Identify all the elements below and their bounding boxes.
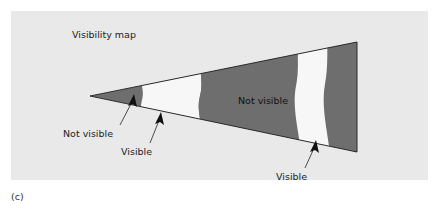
- visibility-map-diagram: Not visible Visible Not visible Visible …: [0, 0, 440, 217]
- label-not-visible-right: Not visible: [238, 95, 288, 106]
- visibility-map-figure: Not visible Visible Not visible Visible …: [0, 0, 440, 217]
- label-visible-right: Visible: [276, 171, 307, 182]
- label-visible-left: Visible: [121, 146, 152, 157]
- label-not-visible-left: Not visible: [63, 128, 113, 139]
- figure-title: Visibility map: [72, 29, 136, 40]
- figure-caption: (c): [11, 191, 24, 202]
